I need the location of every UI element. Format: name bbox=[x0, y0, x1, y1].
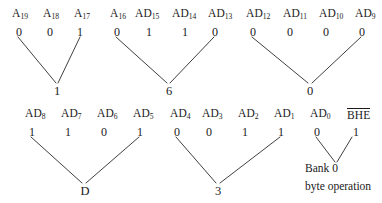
bit-value-ad9: 0 bbox=[355, 26, 369, 38]
bit-value-ad0: 0 bbox=[310, 126, 324, 138]
bit-value-ad11: 0 bbox=[283, 26, 297, 38]
bit-value-ad8: 1 bbox=[25, 126, 39, 138]
hex-digit-nibble-0-upper: 0 bbox=[301, 85, 319, 98]
signal-label-ad12: AD12 bbox=[246, 8, 270, 20]
bit-value-ad14: 1 bbox=[178, 26, 192, 38]
signal-label-ad7: AD7 bbox=[61, 108, 82, 120]
bit-value-a19: 0 bbox=[12, 26, 26, 38]
bit-value-ad13: 0 bbox=[208, 26, 222, 38]
signal-label-ad8: AD8 bbox=[25, 108, 46, 120]
signal-label-ad0: AD0 bbox=[310, 108, 331, 120]
signal-label-ad6: AD6 bbox=[97, 108, 118, 120]
signal-label-ad1: AD1 bbox=[274, 108, 295, 120]
annotation-operation-line: byte operation bbox=[305, 181, 371, 193]
bit-value-ad15: 1 bbox=[142, 26, 156, 38]
signal-label-a16: A16 bbox=[110, 8, 126, 20]
signal-label-ad5: AD5 bbox=[133, 108, 154, 120]
signal-label-ad15: AD15 bbox=[135, 8, 159, 20]
signal-label-ad3: AD3 bbox=[202, 108, 223, 120]
signal-label-ad10: AD10 bbox=[319, 8, 343, 20]
bit-value-bhe: 1 bbox=[349, 126, 363, 138]
signal-label-ad9: AD9 bbox=[355, 8, 376, 20]
signal-label-a18: A18 bbox=[43, 8, 59, 20]
signal-label-ad11: AD11 bbox=[283, 8, 307, 20]
signal-label-ad14: AD14 bbox=[172, 8, 196, 20]
signal-label-ad4: AD4 bbox=[170, 108, 191, 120]
annotation-bank-line: Bank 0 bbox=[305, 163, 338, 175]
address-decode-figure: A19 A18 A17 0 0 1 1 A16 AD15 AD14 AD13 0… bbox=[0, 0, 382, 203]
bit-value-ad1: 1 bbox=[274, 126, 288, 138]
bit-value-ad5: 1 bbox=[133, 126, 147, 138]
bit-value-a17: 1 bbox=[73, 26, 87, 38]
signal-label-a17: A17 bbox=[74, 8, 90, 20]
hex-digit-nibble-6: 6 bbox=[160, 85, 178, 98]
hex-digit-nibble-d: D bbox=[76, 185, 94, 198]
bit-value-a16: 0 bbox=[110, 26, 124, 38]
signal-label-bhe: BHE bbox=[347, 108, 370, 121]
signal-label-ad13: AD13 bbox=[208, 8, 232, 20]
bit-value-ad4: 0 bbox=[170, 126, 184, 138]
bit-value-ad10: 0 bbox=[319, 26, 333, 38]
bit-value-ad2: 1 bbox=[238, 126, 252, 138]
bit-value-ad3: 0 bbox=[202, 126, 216, 138]
signal-label-ad2: AD2 bbox=[238, 108, 259, 120]
hex-digit-nibble-1: 1 bbox=[48, 85, 66, 98]
bit-value-ad7: 1 bbox=[61, 126, 75, 138]
signal-label-a19: A19 bbox=[12, 8, 28, 20]
bit-value-ad6: 0 bbox=[97, 126, 111, 138]
hex-digit-nibble-3: 3 bbox=[209, 185, 227, 198]
bit-value-ad12: 0 bbox=[246, 26, 260, 38]
bit-value-a18: 0 bbox=[43, 26, 57, 38]
bhe-overline-text: BHE bbox=[347, 108, 370, 121]
